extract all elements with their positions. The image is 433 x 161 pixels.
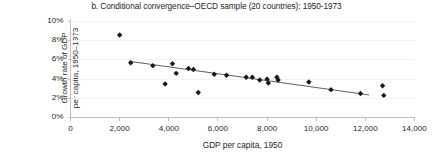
- y-tick-label: 10%: [38, 16, 64, 25]
- data-point: [380, 83, 385, 88]
- data-point: [117, 32, 122, 37]
- x-tick-label: 10,000: [296, 124, 336, 133]
- y-tick-label: 8%: [38, 35, 64, 44]
- data-point: [150, 63, 155, 68]
- y-tick-label: 4%: [38, 74, 64, 83]
- data-point: [381, 93, 386, 98]
- data-point: [186, 66, 191, 71]
- data-point: [170, 61, 175, 66]
- x-tick-label: 2,000: [100, 124, 140, 133]
- data-point: [224, 73, 229, 78]
- data-point: [196, 90, 201, 95]
- x-tick-label: 4,000: [149, 124, 189, 133]
- data-point: [162, 81, 167, 86]
- x-tick-label: 8,000: [247, 124, 287, 133]
- x-axis-title: GDP per capita, 1950: [70, 140, 415, 150]
- axis-lines: [71, 19, 415, 118]
- x-tick-label: 0: [51, 124, 91, 133]
- y-tick-label: 2%: [38, 93, 64, 102]
- y-tick-label: 0%: [38, 112, 64, 121]
- y-tick-label: 6%: [38, 54, 64, 63]
- x-tick-label: 6,000: [198, 124, 238, 133]
- data-point: [128, 60, 133, 65]
- data-point: [173, 71, 178, 76]
- gridlines: [71, 22, 415, 118]
- x-tick-label: 14,000: [395, 124, 433, 133]
- data-point: [191, 67, 196, 72]
- data-point: [257, 77, 262, 82]
- data-point: [306, 79, 311, 84]
- data-point: [212, 72, 217, 77]
- data-point: [358, 91, 363, 96]
- plot-area: [0, 0, 433, 161]
- data-point: [328, 87, 333, 92]
- x-tick-label: 12,000: [345, 124, 385, 133]
- chart-figure: b. Conditional convergence–OECD sample (…: [0, 0, 433, 161]
